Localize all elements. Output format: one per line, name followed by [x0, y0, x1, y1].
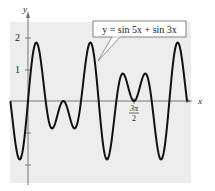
y-tick-label-1: 1: [15, 64, 20, 75]
y-tick-label-2: 2: [15, 32, 20, 43]
plot-background: [10, 22, 191, 183]
x-tick-label-numerator: 3π: [129, 104, 139, 113]
y-axis-label: y: [22, 4, 27, 14]
equation-label: y = sin 5x + sin 3x: [102, 24, 177, 35]
chart: y x 2 1 3π 2 y = sin 5x + sin 3x: [0, 0, 215, 191]
x-axis-label: x: [197, 96, 202, 106]
x-tick-label-denominator: 2: [132, 114, 136, 123]
